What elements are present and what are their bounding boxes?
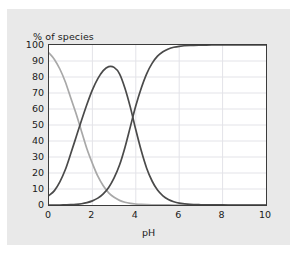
x-tick-label: 2	[81, 210, 101, 220]
x-tick-label: 0	[38, 210, 58, 220]
figure-card: % of species 0102030405060708090100 0246…	[7, 9, 290, 245]
x-tick-label: 10	[255, 210, 275, 220]
y-tick-label: 40	[20, 136, 44, 145]
y-tick-label: 70	[20, 88, 44, 97]
x-tick-label: 4	[125, 210, 145, 220]
y-tick-label: 30	[20, 152, 44, 161]
y-tick-label: 80	[20, 72, 44, 81]
y-tick-label: 90	[20, 56, 44, 65]
y-tick-label: 20	[20, 168, 44, 177]
x-tick-label: 6	[168, 210, 188, 220]
plot-area	[48, 44, 267, 206]
x-tick-label: 8	[212, 210, 232, 220]
y-tick-label: 60	[20, 104, 44, 113]
y-tick-label: 0	[20, 200, 44, 209]
curve-2	[49, 66, 266, 205]
y-tick-label: 100	[20, 40, 44, 49]
species-curves	[49, 45, 266, 205]
y-tick-label: 10	[20, 184, 44, 193]
curve-3	[49, 45, 266, 205]
y-tick-label: 50	[20, 120, 44, 129]
curve-1	[49, 53, 266, 205]
x-axis-title: pH	[7, 227, 290, 238]
